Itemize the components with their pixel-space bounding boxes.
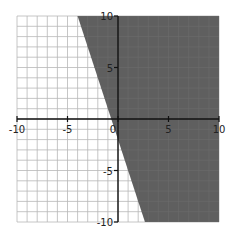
x-tick-label: 0	[110, 124, 116, 135]
x-tick-label: -10	[9, 124, 25, 135]
x-tick-label: -5	[63, 124, 73, 135]
x-tick-label: 5	[165, 124, 171, 135]
y-tick-label: -10	[97, 217, 113, 228]
y-tick-label: 5	[107, 63, 113, 74]
y-tick-label: -5	[103, 166, 113, 177]
inequality-graph: -10-50510-10-5510	[0, 0, 236, 235]
y-tick-label: 10	[100, 11, 113, 22]
x-tick-label: 10	[213, 124, 226, 135]
